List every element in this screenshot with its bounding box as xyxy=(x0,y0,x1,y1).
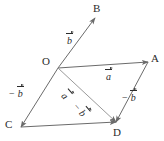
vector-label-minus-b-left: −b xyxy=(9,89,24,99)
vector-label-b-upper: b xyxy=(64,36,73,46)
vector-label-minus-b-right-letter: b xyxy=(130,93,137,103)
point-label-A: A xyxy=(151,53,159,64)
vector-label-a-top: a xyxy=(103,72,112,82)
vector-parallelogram-figure: O A B C D b a −b −b a −b xyxy=(0,0,164,141)
point-label-B: B xyxy=(93,3,100,14)
vector-label-a-top-letter: a xyxy=(105,72,112,82)
vector-label-minus-b-left-letter: b xyxy=(17,89,24,99)
point-label-O: O xyxy=(42,56,50,67)
vector-label-minus-b-left-sign: − xyxy=(9,88,17,99)
segment-O-to-A xyxy=(58,62,148,68)
vector-diagram-canvas xyxy=(0,0,164,141)
segment-C-to-D xyxy=(21,122,116,127)
point-label-D: D xyxy=(113,127,121,138)
segment-O-to-C xyxy=(21,68,58,127)
point-label-C: C xyxy=(5,119,12,130)
vector-label-b-upper-letter: b xyxy=(66,36,73,46)
vector-label-minus-b-right-sign: − xyxy=(122,92,130,103)
vector-label-minus-b-right: −b xyxy=(122,93,137,103)
